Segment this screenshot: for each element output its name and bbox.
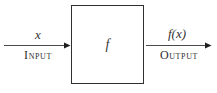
input-arrowhead-icon [64,43,71,49]
function-diagram: f x f(x) Input Output [0,0,217,93]
input-caption: Input [24,49,52,61]
input-value-label: x [35,28,41,41]
output-caption: Output [160,49,198,61]
function-box: f [71,5,144,84]
output-value-label: f(x) [168,27,186,40]
function-box-label: f [106,38,110,52]
output-arrowhead-icon [205,43,212,49]
